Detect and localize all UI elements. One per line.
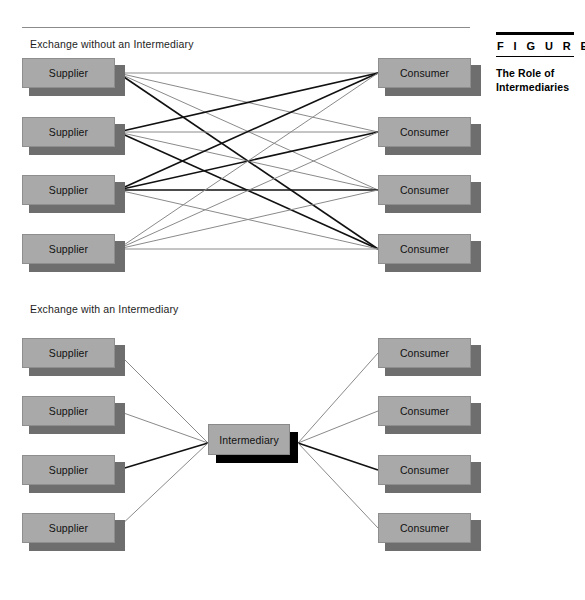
consumer-box-top-4: Consumer — [378, 234, 474, 272]
link-top-s3-c2 — [118, 132, 378, 190]
box-label: Consumer — [400, 67, 449, 79]
consumer-box-top-3: Consumer — [378, 175, 474, 213]
link-top-s1-c3 — [118, 73, 378, 190]
box-face: Supplier — [22, 117, 115, 147]
box-label: Consumer — [400, 243, 449, 255]
box-label: Consumer — [400, 464, 449, 476]
link-top-s4-c3 — [118, 190, 378, 249]
section-label-without-intermediary: Exchange without an Intermediary — [30, 38, 194, 51]
box-face: Supplier — [22, 338, 115, 368]
box-label: Supplier — [49, 347, 88, 359]
supplier-box-top-2: Supplier — [22, 117, 118, 155]
box-face: Consumer — [378, 117, 471, 147]
link-bottom-supplier-3 — [118, 443, 208, 470]
box-label: Consumer — [400, 522, 449, 534]
consumer-box-bottom-3: Consumer — [378, 455, 474, 493]
figure-caption-block: F I G U R E The Role of Intermediaries — [496, 32, 576, 94]
supplier-box-bottom-4: Supplier — [22, 513, 118, 551]
box-label: Consumer — [400, 405, 449, 417]
box-label: Supplier — [49, 126, 88, 138]
intermediary-box: Intermediary — [208, 424, 298, 463]
supplier-box-bottom-2: Supplier — [22, 396, 118, 434]
figure-title-line-2: Intermediaries — [496, 80, 576, 94]
box-face: Consumer — [378, 455, 471, 485]
link-bottom-consumer-3 — [298, 443, 378, 470]
consumer-box-bottom-2: Consumer — [378, 396, 474, 434]
link-top-s4-c1 — [118, 73, 378, 249]
box-face: Consumer — [378, 58, 471, 88]
box-face: Consumer — [378, 513, 471, 543]
link-top-s3-c1 — [118, 73, 378, 190]
supplier-box-bottom-1: Supplier — [22, 338, 118, 376]
link-top-s2-c4 — [118, 132, 378, 249]
figure-page: Exchange without an Intermediary Exchang… — [0, 0, 585, 600]
box-label: Supplier — [49, 243, 88, 255]
link-bottom-supplier-1 — [118, 353, 208, 443]
box-face: Consumer — [378, 396, 471, 426]
box-face: Supplier — [22, 396, 115, 426]
link-top-s3-c4 — [118, 190, 378, 249]
link-bottom-supplier-2 — [118, 411, 208, 443]
figure-kicker: F I G U R E — [496, 35, 576, 56]
link-top-s2-c1 — [118, 73, 378, 132]
figure-title-line-1: The Role of — [496, 66, 576, 80]
box-label: Consumer — [400, 184, 449, 196]
figure-title: The Role of Intermediaries — [496, 57, 576, 94]
consumer-box-bottom-4: Consumer — [378, 513, 474, 551]
supplier-box-top-4: Supplier — [22, 234, 118, 272]
box-label: Consumer — [400, 347, 449, 359]
box-label: Supplier — [49, 67, 88, 79]
box-label: Consumer — [400, 126, 449, 138]
box-face: Consumer — [378, 175, 471, 205]
link-bottom-consumer-2 — [298, 411, 378, 443]
box-face: Supplier — [22, 513, 115, 543]
box-face: Supplier — [22, 455, 115, 485]
link-top-s1-c4 — [118, 73, 378, 249]
link-top-s2-c3 — [118, 132, 378, 190]
link-bottom-supplier-4 — [118, 443, 208, 528]
supplier-box-top-3: Supplier — [22, 175, 118, 213]
supplier-box-top-1: Supplier — [22, 58, 118, 96]
box-label: Supplier — [49, 184, 88, 196]
link-bottom-consumer-1 — [298, 353, 378, 443]
box-face: Supplier — [22, 234, 115, 264]
consumer-box-top-1: Consumer — [378, 58, 474, 96]
box-face: Consumer — [378, 234, 471, 264]
section-label-with-intermediary: Exchange with an Intermediary — [30, 303, 179, 316]
link-bottom-consumer-4 — [298, 443, 378, 528]
box-face: Supplier — [22, 58, 115, 88]
box-label: Intermediary — [219, 434, 279, 446]
consumer-box-bottom-1: Consumer — [378, 338, 474, 376]
box-label: Supplier — [49, 405, 88, 417]
link-top-s1-c2 — [118, 73, 378, 132]
box-face: Intermediary — [208, 424, 290, 455]
box-label: Supplier — [49, 522, 88, 534]
consumer-box-top-2: Consumer — [378, 117, 474, 155]
top-divider-rule — [22, 27, 470, 28]
box-face: Supplier — [22, 175, 115, 205]
box-label: Supplier — [49, 464, 88, 476]
link-top-s4-c2 — [118, 132, 378, 249]
supplier-box-bottom-3: Supplier — [22, 455, 118, 493]
box-face: Consumer — [378, 338, 471, 368]
